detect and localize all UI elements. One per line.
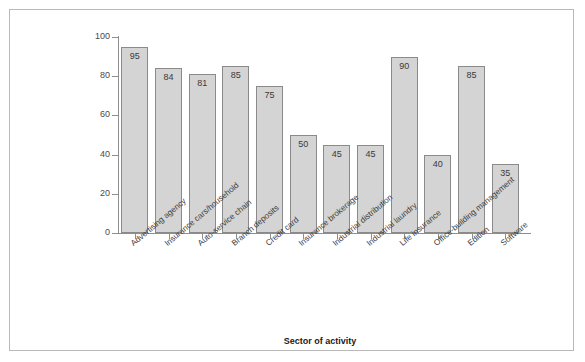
- bar-value-label: 50: [291, 139, 316, 149]
- x-axis-title: Sector of activity: [118, 336, 522, 346]
- bar-value-label: 81: [190, 78, 215, 88]
- y-axis-tick-label: 0: [74, 227, 110, 237]
- bar-value-label: 84: [156, 72, 181, 82]
- bar-value-label: 45: [358, 149, 383, 159]
- bar: 95: [121, 47, 148, 233]
- y-axis-tick-label: 60: [74, 109, 110, 119]
- bar-value-label: 85: [459, 70, 484, 80]
- bar-value-label: 75: [257, 90, 282, 100]
- y-axis-tick-label: 80: [74, 70, 110, 80]
- bar-value-label: 40: [425, 159, 450, 169]
- y-axis-tick-label: 20: [74, 188, 110, 198]
- bar-value-label: 90: [392, 61, 417, 71]
- bar-value-label: 85: [223, 70, 248, 80]
- y-axis-tick: [112, 233, 118, 234]
- y-axis-tick-label: 100: [74, 31, 110, 41]
- bar-value-label: 35: [493, 168, 518, 178]
- bar-value-label: 95: [122, 51, 147, 61]
- figure-frame: 020406080100 Percent increase in custome…: [9, 9, 574, 351]
- bar-value-label: 45: [324, 149, 349, 159]
- y-axis-tick-label: 40: [74, 149, 110, 159]
